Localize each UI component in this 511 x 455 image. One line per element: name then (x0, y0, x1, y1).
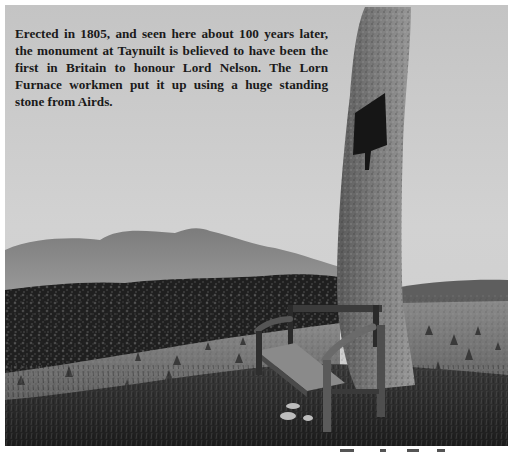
photograph: Erected in 1805, and seen here about 100… (5, 5, 508, 446)
photo-caption: Erected in 1805, and seen here about 100… (15, 25, 328, 110)
cut-off-text-fragment (335, 449, 495, 455)
